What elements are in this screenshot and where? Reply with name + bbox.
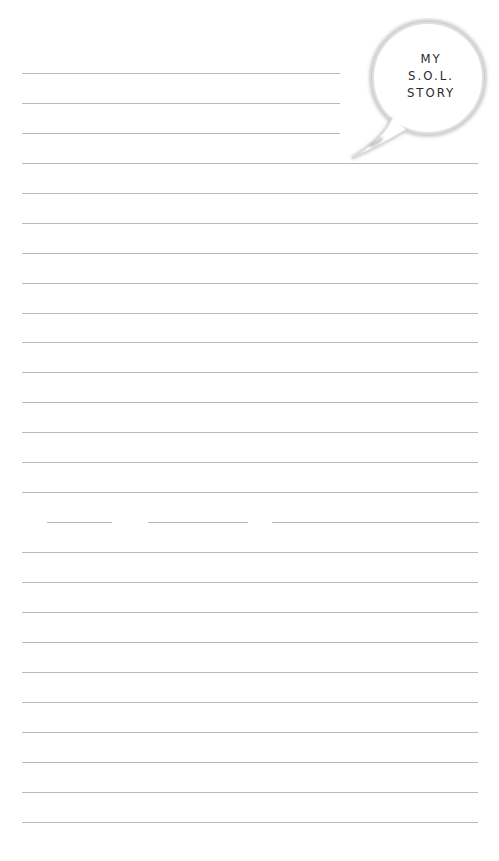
writing-line <box>22 822 478 823</box>
badge-line-story: STORY <box>376 84 486 101</box>
writing-line <box>22 702 478 703</box>
writing-line <box>22 342 478 343</box>
writing-line <box>22 612 478 613</box>
writing-line <box>22 732 478 733</box>
badge-line-sol: S.O.L. <box>376 67 486 84</box>
writing-line-segment <box>272 522 479 523</box>
writing-line <box>22 372 478 373</box>
writing-line <box>22 492 478 493</box>
writing-line <box>22 762 478 763</box>
writing-line <box>22 462 478 463</box>
writing-line <box>22 432 478 433</box>
badge-line-my: MY <box>376 50 486 67</box>
writing-line <box>22 313 478 314</box>
writing-line <box>22 223 478 224</box>
writing-line <box>22 103 340 104</box>
writing-line <box>22 133 340 134</box>
writing-line <box>22 672 478 673</box>
writing-line-segment <box>47 522 112 523</box>
writing-line <box>22 552 478 553</box>
writing-line <box>22 163 478 164</box>
writing-line <box>22 283 478 284</box>
writing-line <box>22 73 340 74</box>
writing-line <box>22 642 478 643</box>
story-badge: MY S.O.L. STORY <box>376 50 486 101</box>
writing-line <box>22 253 478 254</box>
writing-line <box>22 402 478 403</box>
writing-line <box>22 792 478 793</box>
writing-line-segment <box>148 522 248 523</box>
writing-line <box>22 582 478 583</box>
writing-line <box>22 193 478 194</box>
